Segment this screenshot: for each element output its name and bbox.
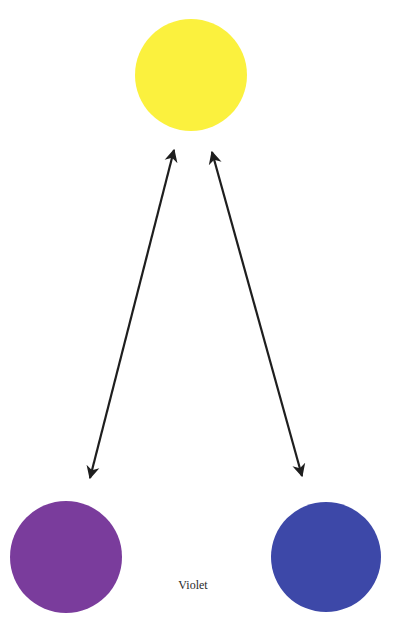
violet-circle	[10, 501, 122, 613]
violet-label: Violet	[143, 578, 243, 593]
blue-circle	[271, 502, 381, 612]
yellow-circle	[135, 19, 247, 131]
color-diagram	[0, 0, 399, 622]
double-arrow-yellow-blue	[212, 152, 302, 476]
double-arrow-yellow-violet	[90, 150, 174, 478]
